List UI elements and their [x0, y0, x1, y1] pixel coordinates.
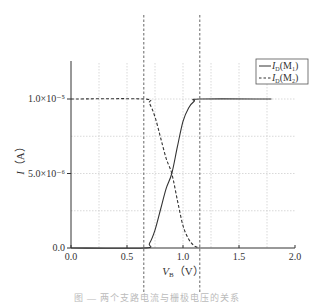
x-tick-label: 0.5 [121, 251, 134, 262]
svg-text:ID(M2): ID(M2) [271, 72, 298, 84]
x-tick-label: 0.0 [65, 251, 78, 262]
y-tick-label: 5.0×10⁻⁶ [28, 168, 65, 179]
grid-lines [71, 63, 295, 248]
figure-caption: 图 — 两个支路电流与栅极电压的关系 [0, 291, 314, 304]
x-tick-label: 2.0 [289, 251, 302, 262]
legend: ID(M1) ID(M2) [256, 59, 308, 84]
x-tick-label: 1.5 [233, 251, 246, 262]
svg-text:ID(M1): ID(M1) [271, 60, 298, 72]
y-tick-label: 0.0 [53, 242, 66, 253]
tick-labels: 0.00.51.01.52.00.05.0×10⁻⁶1.0×10⁻⁵ [28, 93, 301, 262]
y-tick-label: 1.0×10⁻⁵ [28, 93, 65, 104]
x-tick-label: 1.0 [177, 251, 190, 262]
x-axis-label: VB（V） [162, 265, 203, 279]
y-axis-label: I（A） [14, 141, 26, 176]
chart: 0.00.51.01.52.00.05.0×10⁻⁶1.0×10⁻⁵ I（A） … [0, 0, 314, 307]
vertical-marker-lines [144, 15, 200, 292]
